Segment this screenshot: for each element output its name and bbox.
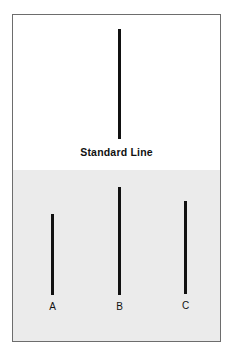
comparison-line-c bbox=[184, 201, 187, 294]
comparison-lines-panel: A B C Comparison Lines bbox=[13, 170, 220, 342]
comparison-line-a bbox=[51, 214, 54, 295]
standard-line-caption: Standard Line bbox=[13, 146, 220, 158]
standard-line bbox=[118, 29, 121, 139]
figure-frame: Standard Line A B C Comparison Lines bbox=[12, 14, 221, 342]
standard-line-panel: Standard Line bbox=[13, 15, 220, 170]
comparison-line-label-c: C bbox=[176, 300, 196, 311]
comparison-line-label-a: A bbox=[43, 301, 63, 312]
comparison-line-b bbox=[118, 187, 121, 295]
line-judgment-figure: Standard Line A B C Comparison Lines bbox=[0, 0, 232, 355]
comparison-line-label-b: B bbox=[110, 301, 130, 312]
